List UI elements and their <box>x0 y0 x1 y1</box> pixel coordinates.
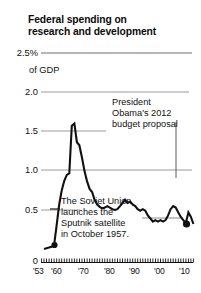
y-tick-label-0-5: 0.5 <box>0 205 38 215</box>
chart-svg <box>0 0 201 293</box>
y-tick-label-1-0: 1.0 <box>0 165 38 175</box>
annotation-obama: President Obama's 2012 budget proposal <box>112 97 178 130</box>
annotation-sputnik-line-1: The Soviet Union <box>61 196 131 207</box>
x-tick-label-70: '70 <box>78 266 89 276</box>
plot-area <box>0 0 201 293</box>
annotation-obama-line-1: President <box>112 97 178 108</box>
annotation-obama-line-2: Obama's 2012 <box>112 108 178 119</box>
chart-figure: Federal spending on research and develop… <box>0 0 201 293</box>
x-tick-label-10: '10 <box>179 266 190 276</box>
y-tick-label-1-5: 1.5 <box>0 126 38 136</box>
x-tick-label-60: '60 <box>51 266 62 276</box>
x-tick-label-00: '00 <box>154 266 165 276</box>
end-marker <box>183 220 190 227</box>
y-tick-label-0: 0 <box>0 256 38 266</box>
x-axis <box>41 259 193 263</box>
y-tick-label-2-0: 2.0 <box>0 87 38 97</box>
x-tick-label-80: '80 <box>104 266 115 276</box>
x-tick-label-90: '90 <box>129 266 140 276</box>
x-axis-ticks <box>42 259 194 263</box>
y-axis-label: of GDP <box>29 65 59 75</box>
start-marker <box>51 242 57 248</box>
annotation-sputnik: The Soviet Union launches the Sputnik sa… <box>61 196 131 240</box>
y-tick-label-2-5: 2.5% <box>0 48 38 58</box>
annotation-sputnik-line-2: launches the <box>61 207 131 218</box>
annotation-sputnik-line-4: in October 1957. <box>61 229 131 240</box>
annotation-obama-line-3: budget proposal <box>112 119 178 130</box>
annotation-sputnik-line-3: Sputnik satellite <box>61 218 131 229</box>
x-tick-label-53: '53 <box>33 266 44 276</box>
